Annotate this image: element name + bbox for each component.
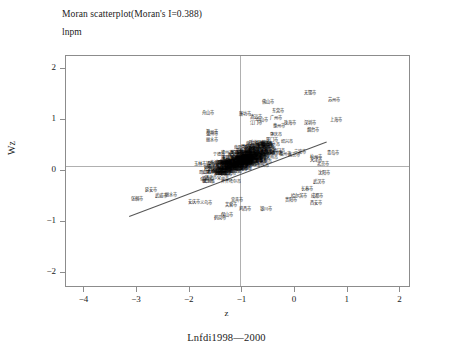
y-axis-title: Wz	[6, 141, 17, 155]
scatter-point-label: 无锡市	[304, 91, 316, 96]
y-tick-label: −2	[30, 267, 56, 276]
scatter-point-label: 丽水市	[165, 193, 177, 198]
figure-caption: Lnfdi1998—2000	[0, 332, 453, 343]
scatter-point-label: 武汉市	[313, 180, 325, 185]
x-tick-label: −2	[176, 294, 202, 304]
scatter-point-label: 佛山市	[262, 100, 274, 105]
scatter-point-label: 义乌市	[200, 201, 212, 206]
x-tick-mark	[83, 287, 84, 292]
scatter-point-label: 滁州市	[206, 130, 218, 135]
scatter-point-label: 丽水市	[206, 138, 218, 143]
x-tick-label: 1	[334, 294, 360, 304]
moran-scatterplot-figure: Moran scatterplot(Moran's I=0.388) lnpm …	[0, 0, 453, 358]
scatter-point-label: 太原市	[217, 172, 229, 177]
y-tick-label: −1	[30, 216, 56, 225]
scatter-point-label: 深圳市	[304, 120, 316, 125]
scatter-point-label: 珠海市	[284, 121, 296, 126]
x-tick-mark	[399, 287, 400, 292]
y-tick-label: 2	[30, 63, 56, 72]
scatter-point-label: 南宁市	[225, 166, 237, 171]
scatter-point-label: 银川市	[260, 207, 272, 212]
scatter-point-label: 上海市	[330, 117, 342, 122]
scatter-point-label: 中山市	[256, 117, 268, 122]
chart-title: Moran scatterplot(Moran's I=0.388)	[62, 9, 202, 19]
scatter-point-label: 安庆市	[188, 200, 200, 205]
scatter-point-label: 舟山市	[202, 110, 214, 115]
scatter-point-label: 东莞市	[272, 108, 284, 113]
x-tick-mark	[294, 287, 295, 292]
scatter-point-label: 芙蓉市	[225, 203, 237, 208]
y-tick-label: 1	[30, 114, 56, 123]
x-tick-label: 0	[281, 294, 307, 304]
x-tick-label: −4	[70, 294, 96, 304]
x-tick-mark	[241, 287, 242, 292]
plot-area: 无锡市苏州市佛山市舟山市廉坊市东莞市广州市清远市上海市深圳市烟台市江门市惠州市珠…	[65, 55, 410, 287]
y-axis-unit-label: lnpm	[62, 27, 82, 37]
scatter-point-label: 兰州市	[258, 156, 270, 161]
scatter-point-label: 北京市	[317, 161, 329, 166]
x-tick-mark	[347, 287, 348, 292]
scatter-point-label: 长沙市	[240, 162, 252, 167]
scatter-point-label: 齐齐哈尔市	[221, 179, 241, 184]
scatter-point-label: 苏州市	[328, 98, 340, 103]
x-tick-label: 2	[386, 294, 412, 304]
x-tick-mark	[189, 287, 190, 292]
x-tick-label: −3	[123, 294, 149, 304]
scatter-point-label: 青岛市	[327, 151, 339, 156]
x-axis-title: z	[0, 308, 453, 318]
scatter-point-label: 重庆市	[257, 164, 269, 169]
scatter-point-label: 黑河市	[203, 179, 215, 184]
scatter-point-label: 烟台市	[307, 128, 319, 133]
scatter-point-label: 延安市	[145, 188, 157, 193]
scatter-point-label: 鸡西市	[239, 207, 251, 212]
scatter-point-label: 广州市	[270, 115, 282, 120]
scatter-point-label: 绍兴市	[281, 140, 293, 145]
scatter-point-label: 成都市	[311, 194, 323, 199]
scatter-point-label: 肇庆市	[270, 132, 282, 137]
scatter-point-label: 西安市	[310, 201, 322, 206]
scatter-point-label: 张掴市	[131, 197, 143, 202]
scatter-point-label: 廉坊市	[239, 111, 251, 116]
y-tick-label: 0	[30, 165, 56, 174]
scatter-point-label: 沈阳市	[318, 170, 330, 175]
x-tick-label: −1	[228, 294, 254, 304]
scatter-point-label: 贵阳市	[285, 198, 297, 203]
x-tick-mark	[136, 287, 137, 292]
scatter-point-label: 长春市	[301, 187, 313, 192]
scatter-point-label: 保山市	[221, 212, 233, 217]
